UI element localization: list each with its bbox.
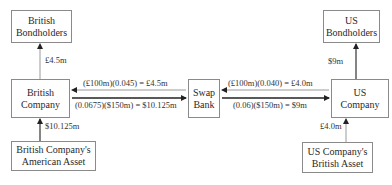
node-label: American Asset xyxy=(22,156,86,168)
node-label: Company xyxy=(21,99,60,111)
edge-label-swap-to-bc: (£100m)(0.045) = £4.5m xyxy=(83,78,168,88)
node-label: Bondholders xyxy=(16,27,67,39)
edge-label-usc-to-bondholders: $9m xyxy=(328,56,343,66)
node-label: Company xyxy=(341,99,380,111)
node-label: British xyxy=(27,87,54,99)
node-label: US xyxy=(354,87,367,99)
node-label: Bondholders xyxy=(326,27,377,39)
edge-label-swap-to-usc: (0.06)($150m) = $9m xyxy=(233,100,307,110)
british-company-box: British Company xyxy=(11,79,70,118)
node-label: US xyxy=(345,15,358,27)
swap-bank-box: Swap Bank xyxy=(188,79,220,118)
edge-label-asset-to-bc: $10.125m xyxy=(45,121,79,131)
us-bondholders-box: US Bondholders xyxy=(323,10,380,43)
node-label: Swap xyxy=(193,87,215,99)
node-label: Bank xyxy=(193,99,214,111)
us-company-british-asset-box: US Company's British Asset xyxy=(302,142,373,173)
edge-label-asset-to-usc: £4.0m xyxy=(320,121,342,131)
node-label: US Company's xyxy=(308,146,368,158)
node-label: British xyxy=(28,15,55,27)
node-label: British Asset xyxy=(312,158,363,170)
node-label: British Company's xyxy=(16,144,90,156)
british-bondholders-box: British Bondholders xyxy=(11,10,72,43)
british-company-american-asset-box: British Company's American Asset xyxy=(11,141,96,171)
edge-label-usc-to-swap: (£100m)(0.040) = £4.0m xyxy=(228,78,313,88)
us-company-box: US Company xyxy=(331,79,389,118)
edge-label-bc-to-bondholders: £4.5m xyxy=(45,55,67,65)
edge-label-bc-to-swap: (0.0675)($150m) = $10.125m xyxy=(75,100,177,110)
